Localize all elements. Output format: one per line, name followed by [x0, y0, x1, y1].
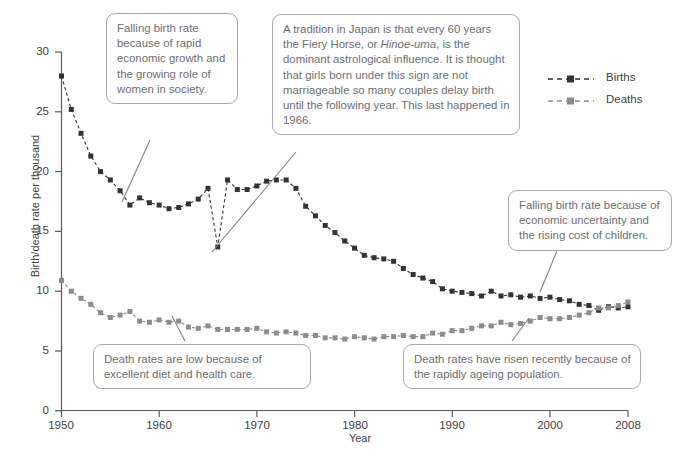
annotation-hinoe-uma-italic: Hinoe-uma	[380, 38, 436, 50]
data-point	[469, 326, 474, 331]
data-point	[538, 296, 543, 301]
data-point	[372, 255, 377, 260]
data-point	[577, 302, 582, 307]
data-point	[98, 169, 103, 174]
x-axis-ticks	[62, 411, 629, 418]
data-point	[245, 327, 250, 332]
data-point	[450, 289, 455, 294]
data-point	[88, 302, 93, 307]
data-point	[166, 206, 171, 211]
data-point	[362, 253, 367, 258]
data-point	[59, 73, 64, 78]
data-point	[215, 327, 220, 332]
data-point	[186, 325, 191, 330]
data-point	[225, 177, 230, 182]
data-point	[303, 333, 308, 338]
x-axis-title: Year	[330, 432, 390, 444]
data-point	[489, 323, 494, 328]
data-point	[381, 334, 386, 339]
data-point	[450, 328, 455, 333]
callout-leader-lines	[122, 140, 559, 341]
data-point	[264, 329, 269, 334]
x-tick-1980: 1980	[325, 419, 385, 431]
data-point	[459, 328, 464, 333]
data-point	[352, 246, 357, 251]
y-tick-5: 5	[19, 344, 49, 356]
data-point	[69, 289, 74, 294]
series-line	[62, 280, 629, 339]
data-point	[147, 200, 152, 205]
x-tick-2000: 2000	[520, 419, 580, 431]
data-point	[430, 279, 435, 284]
data-point	[547, 295, 552, 300]
legend-label-deaths: Deaths	[606, 93, 642, 105]
data-point	[79, 131, 84, 136]
chart-legend: Births Deaths	[548, 66, 678, 110]
data-point	[411, 272, 416, 277]
x-tick-1970: 1970	[227, 419, 287, 431]
data-point	[626, 304, 631, 309]
data-point	[166, 320, 171, 325]
data-point	[274, 331, 279, 336]
data-point	[323, 335, 328, 340]
data-point	[108, 177, 113, 182]
legend-item-deaths: Deaths	[548, 88, 678, 110]
data-point	[342, 337, 347, 342]
annotation-hinoe-uma: A tradition in Japan is that every 60 ye…	[272, 14, 520, 135]
data-point	[284, 177, 289, 182]
data-point	[362, 335, 367, 340]
data-point	[59, 278, 64, 283]
data-point	[547, 316, 552, 321]
data-point	[127, 203, 132, 208]
data-point	[88, 154, 93, 159]
data-point	[391, 259, 396, 264]
data-point	[254, 326, 259, 331]
data-point	[557, 297, 562, 302]
data-point	[518, 295, 523, 300]
x-tick-1950: 1950	[31, 419, 91, 431]
data-point	[440, 332, 445, 337]
data-point	[606, 305, 611, 310]
data-point	[391, 334, 396, 339]
data-point	[235, 327, 240, 332]
data-point	[626, 299, 631, 304]
data-point	[108, 315, 113, 320]
data-point	[137, 319, 142, 324]
data-point	[538, 315, 543, 320]
data-point	[293, 331, 298, 336]
data-point	[518, 321, 523, 326]
data-point	[586, 310, 591, 315]
annotation-death-low: Death rates are low because of excellent…	[93, 344, 311, 389]
data-point	[235, 187, 240, 192]
data-point	[79, 296, 84, 301]
y-tick-25: 25	[19, 105, 49, 117]
x-tick-1990: 1990	[422, 419, 482, 431]
data-point	[293, 186, 298, 191]
legend-key-births-icon	[548, 71, 594, 83]
data-point	[479, 323, 484, 328]
data-point	[196, 197, 201, 202]
data-point	[313, 213, 318, 218]
data-point	[430, 331, 435, 336]
data-point	[489, 289, 494, 294]
x-tick-2008: 2008	[598, 419, 658, 431]
chart-figure: 30 25 20 15 10 5 0 1950 1960 1970 1980 1…	[0, 0, 691, 470]
data-point	[118, 313, 123, 318]
data-point	[176, 205, 181, 210]
x-tick-1960: 1960	[129, 419, 189, 431]
data-point	[499, 293, 504, 298]
data-point	[567, 298, 572, 303]
data-point	[147, 320, 152, 325]
data-point	[332, 335, 337, 340]
data-point	[508, 292, 513, 297]
data-point	[352, 334, 357, 339]
data-point	[303, 204, 308, 209]
data-point	[157, 203, 162, 208]
data-point	[176, 319, 181, 324]
legend-item-births: Births	[548, 66, 678, 88]
data-point	[206, 323, 211, 328]
data-point	[264, 179, 269, 184]
y-tick-30: 30	[19, 45, 49, 57]
y-axis-title: Birth/death rate per thousand	[29, 126, 41, 286]
data-point	[372, 337, 377, 342]
